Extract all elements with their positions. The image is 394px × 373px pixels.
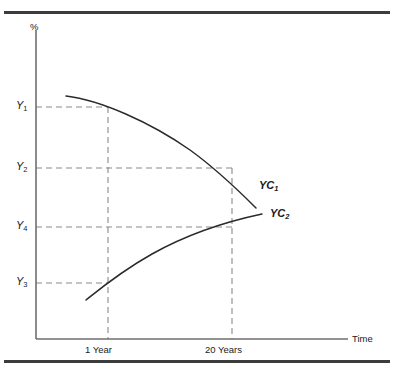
axes xyxy=(36,30,348,339)
curve-label-yc2-base: YC xyxy=(270,207,285,219)
curve-label-yc2: YC2 xyxy=(270,208,289,219)
y-value-label-y1: Y1 xyxy=(16,100,28,111)
y-value-label-y4: Y4 xyxy=(16,220,28,231)
x-axis-title: Time xyxy=(352,334,373,344)
y-value-label-y3-sub: 3 xyxy=(23,280,27,289)
x-tick-label-20-years: 20 Years xyxy=(205,345,242,355)
y-value-label-y3: Y3 xyxy=(16,276,28,287)
curve-yc2 xyxy=(86,214,262,300)
y-value-label-y1-sub: 1 xyxy=(23,104,27,113)
curve-label-yc2-sub: 2 xyxy=(285,212,289,221)
curve-label-yc1-sub: 1 xyxy=(274,184,278,193)
curve-yc1 xyxy=(66,96,256,208)
y-axis-title: % xyxy=(30,22,38,32)
curve-label-yc1-base: YC xyxy=(259,179,274,191)
plot-area xyxy=(0,0,394,373)
y-value-label-y2-sub: 2 xyxy=(23,165,27,174)
y-value-label-y4-sub: 4 xyxy=(23,224,27,233)
x-tick-label-1-year: 1 Year xyxy=(85,345,112,355)
curve-label-yc1: YC1 xyxy=(259,180,278,191)
yield-curve-figure: % Time Y1 Y2 Y4 Y3 1 Year 20 Years YC1 Y… xyxy=(0,0,394,373)
y-value-label-y2: Y2 xyxy=(16,161,28,172)
guide-lines xyxy=(36,107,232,339)
